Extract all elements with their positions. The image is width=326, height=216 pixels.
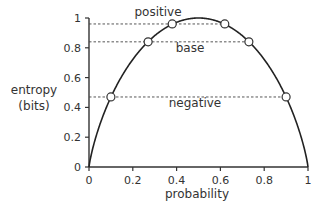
y-tick-label: 1 xyxy=(74,12,81,25)
marker-negative xyxy=(107,93,115,101)
x-axis-label: probability xyxy=(165,187,229,201)
marker-negative xyxy=(282,93,290,101)
y-tick-label: 0.8 xyxy=(64,42,82,55)
reference-lines xyxy=(89,24,286,97)
y-tick-label: 0.2 xyxy=(64,131,82,144)
y-axis-label-line1: entropy xyxy=(11,83,57,97)
y-axis-label-line2: (bits) xyxy=(18,99,49,113)
x-tick-label: 0.2 xyxy=(124,174,142,187)
y-tick-label: 0 xyxy=(74,161,81,174)
entropy-chart: 00.20.40.60.8100.20.40.60.81 positive ba… xyxy=(0,0,326,216)
marker-positive xyxy=(168,20,176,28)
marker-points xyxy=(107,20,290,101)
marker-positive xyxy=(221,20,229,28)
negative-label: negative xyxy=(169,96,221,110)
marker-base xyxy=(245,38,253,46)
x-tick-label: 0.8 xyxy=(255,174,273,187)
x-tick-label: 0 xyxy=(86,174,93,187)
y-tick-label: 0.6 xyxy=(64,72,82,85)
x-tick-label: 0.6 xyxy=(212,174,230,187)
positive-label: positive xyxy=(134,5,181,19)
base-label: base xyxy=(176,41,205,55)
marker-base xyxy=(144,38,152,46)
y-tick-label: 0.4 xyxy=(64,101,82,114)
x-tick-label: 1 xyxy=(305,174,312,187)
x-tick-label: 0.4 xyxy=(168,174,186,187)
